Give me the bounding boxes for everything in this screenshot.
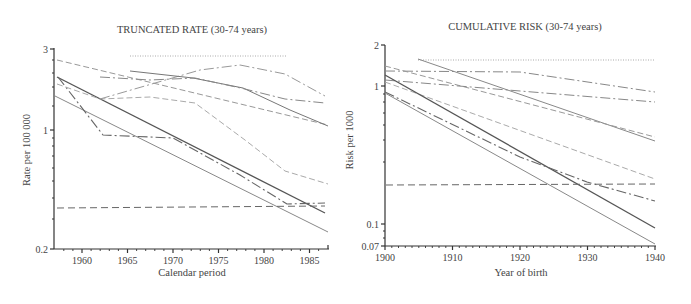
truncated-rate-chart: TRUNCATED RATE (30-74 years) Rate per 10… <box>21 24 329 278</box>
right-series-dashed-bottom <box>386 184 655 185</box>
left-ytick-0-2: 0.2 <box>36 244 49 255</box>
left-xtick-1975: 1975 <box>209 255 229 266</box>
left-series-solid-light <box>55 96 328 232</box>
right-series-solid-dark <box>385 75 655 228</box>
left-x-axis-label: Calendar period <box>158 267 226 278</box>
left-xtick-1960: 1960 <box>72 255 92 266</box>
right-series-dashed-mid <box>385 82 655 179</box>
figure: TRUNCATED RATE (30-74 years) Rate per 10… <box>0 0 691 304</box>
right-y-axis-label: Risk per 1000 <box>344 111 355 170</box>
right-series-solid-light <box>385 93 655 244</box>
left-chart-title: TRUNCATED RATE (30-74 years) <box>117 24 268 36</box>
right-x-axis-label: Year of birth <box>494 267 548 278</box>
left-xtick-1985: 1985 <box>300 255 320 266</box>
cumulative-risk-chart: CUMULATIVE RISK (30-74 years) Risk per 1… <box>344 21 665 278</box>
right-ytick-0-07: 0.07 <box>362 241 380 252</box>
right-ytick-0-1: 0.1 <box>367 219 380 230</box>
right-xtick-1930: 1930 <box>578 252 598 263</box>
right-chart-title: CUMULATIVE RISK (30-74 years) <box>448 21 602 33</box>
right-ytick-2: 2 <box>374 40 379 51</box>
right-series <box>385 59 655 244</box>
right-xtick-1910: 1910 <box>443 252 463 263</box>
right-ytick-1: 1 <box>374 81 379 92</box>
left-xtick-1965: 1965 <box>118 255 138 266</box>
right-y-axis <box>381 45 385 246</box>
left-series <box>55 56 328 232</box>
right-xtick-1940: 1940 <box>645 252 665 263</box>
left-series-dashed-bottom <box>57 206 325 208</box>
left-xtick-1970: 1970 <box>163 255 183 266</box>
left-ytick-3: 3 <box>43 44 48 55</box>
left-series-solid-dark <box>57 77 325 213</box>
left-y-axis <box>50 48 54 249</box>
right-series-dashdot-top <box>385 71 655 92</box>
left-ytick-1: 1 <box>43 125 48 136</box>
right-series-dashed-upper <box>385 66 655 137</box>
left-series-dashed-long <box>57 60 328 125</box>
right-xtick-1900: 1900 <box>375 252 395 263</box>
right-xtick-1920: 1920 <box>510 252 530 263</box>
left-series-dashdot-steep <box>58 77 325 204</box>
left-xtick-1980: 1980 <box>254 255 274 266</box>
left-y-axis-label: Rate per 100 000 <box>21 114 32 186</box>
right-series-dashdot-second <box>385 80 655 102</box>
left-series-dashdot-upper <box>100 77 325 103</box>
